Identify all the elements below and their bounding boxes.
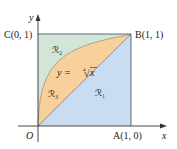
svg-text:y =: y = <box>56 67 71 78</box>
region-r1-label: ℛ₁ <box>95 88 105 98</box>
svg-text:x: x <box>89 67 95 78</box>
region-r2-label: ℛ₂ <box>52 45 62 55</box>
origin-label: O <box>26 130 33 141</box>
region-diagram: y x O C(0, 1) B(1, 1) A(1, 0) ℛ₂ ℛ₃ ℛ₁ y… <box>0 0 177 149</box>
x-axis-label: x <box>161 130 167 141</box>
y-axis-arrow-icon <box>36 14 41 21</box>
point-c-label: C(0, 1) <box>4 29 32 41</box>
region-r3-label: ℛ₃ <box>48 89 58 99</box>
x-axis-arrow-icon <box>160 124 167 129</box>
y-axis-label: y <box>28 12 34 23</box>
point-b-label: B(1, 1) <box>135 29 163 41</box>
point-a-label: A(1, 0) <box>113 130 142 142</box>
